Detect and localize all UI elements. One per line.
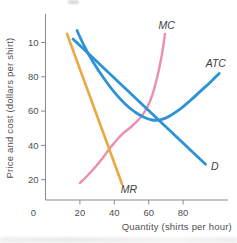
x-tick-label: 20: [75, 207, 86, 218]
x-axis-title: Quantity (shirts per hour): [122, 221, 232, 232]
x-tick-label: 60: [143, 207, 154, 218]
x-tick-label: 80: [178, 207, 189, 218]
mr-curve-label: MR: [121, 183, 138, 195]
mc-curve-label: MC: [159, 19, 176, 31]
atc-curve-label: ATC: [205, 57, 227, 69]
x-tick-label: 40: [109, 207, 120, 218]
y-tick-label: 20: [28, 174, 39, 185]
y-tick-label: 80: [28, 71, 39, 82]
d-curve-label: D: [211, 160, 219, 172]
axes-lines: [46, 14, 229, 200]
y-tick-label: 60: [28, 105, 39, 116]
mr-curve: [67, 34, 122, 184]
x-tick-label: 0: [31, 207, 36, 218]
page-edge-smudge: [0, 237, 237, 243]
y-tick-label: 10: [28, 37, 39, 48]
cost-revenue-curves-chart: 0204060802040608010MCATCDMR Price and co…: [0, 0, 237, 243]
y-axis-title: Price and cost (dollars per shirt): [4, 19, 16, 197]
chart-canvas: 0204060802040608010MCATCDMR: [0, 0, 237, 243]
y-tick-label: 40: [28, 140, 39, 151]
